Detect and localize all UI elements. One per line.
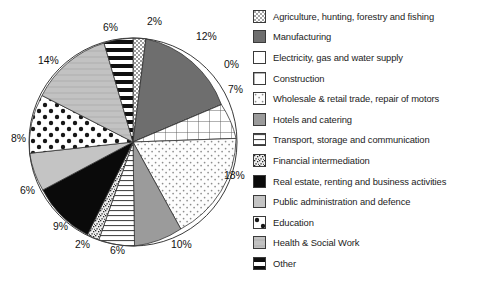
legend-item[interactable]: Other [253,253,496,274]
legend-item-label: Agriculture, hunting, forestry and fishi… [273,11,434,22]
solid-medium-gray-swatch [253,113,266,126]
legend-item[interactable]: Wholesale & retail trade, repair of moto… [253,88,496,109]
legend-item[interactable]: Financial intermediation [253,150,496,171]
pie-chart: 2%12%0%7%18%10%6%2%9%6%8%14%6% [0,0,250,281]
legend-item[interactable]: Public administration and defence [253,191,496,212]
legend-item-label: Other [273,258,296,269]
pie-label: 14% [38,55,59,66]
pie-label: 2% [147,16,162,27]
legend-item[interactable]: Manufacturing [253,27,496,48]
pie-label: 6% [110,245,125,256]
legend-item-label: Education [273,217,314,228]
pie-label: 7% [228,84,243,95]
legend-item[interactable]: Health & Social Work [253,233,496,254]
legend-item[interactable]: Hotels and catering [253,109,496,130]
legend-item-label: Wholesale & retail trade, repair of moto… [273,93,439,104]
legend-item-label: Transport, storage and communication [273,134,430,145]
solid-dark-gray-swatch [253,30,266,43]
pie-label: 18% [224,170,245,181]
legend-item-label: Hotels and catering [273,114,352,125]
legend: Agriculture, hunting, forestry and fishi… [253,6,496,274]
checkerboard-swatch [253,10,266,23]
pie-slices [29,38,237,246]
pie-chart-svg [0,0,250,281]
large-dots-swatch [253,216,266,229]
legend-item-label: Manufacturing [273,31,331,42]
legend-item[interactable]: Electricity, gas and water supply [253,47,496,68]
legend-item[interactable]: Construction [253,68,496,89]
legend-item-label: Public administration and defence [273,196,410,207]
legend-item-label: Financial intermediation [273,155,370,166]
horizontal-thin-lines-swatch [253,133,266,146]
legend-item[interactable]: Transport, storage and communication [253,130,496,151]
legend-item-label: Health & Social Work [273,237,359,248]
solid-black-swatch [253,175,266,188]
pie-label: 8% [11,133,26,144]
grid-swatch [253,72,266,85]
legend-item-label: Real estate, renting and business activi… [273,176,446,187]
pie-label: 9% [53,221,68,232]
legend-item[interactable]: Education [253,212,496,233]
legend-item-label: Construction [273,73,324,84]
pie-label: 2% [75,239,90,250]
pie-label: 12% [196,31,217,42]
light-gray-hlines-swatch [253,236,266,249]
legend-item[interactable]: Real estate, renting and business activi… [253,171,496,192]
legend-item[interactable]: Agriculture, hunting, forestry and fishi… [253,6,496,27]
white-swatch [253,51,266,64]
speckle-swatch [253,154,266,167]
pie-label: 6% [103,22,118,33]
pie-label: 0% [224,59,239,70]
pie-label: 6% [20,185,35,196]
solid-light-gray-swatch [253,195,266,208]
pie-label: 10% [171,239,192,250]
fine-dots-swatch [253,92,266,105]
thick-horizontal-stripes-swatch [253,257,266,270]
legend-item-label: Electricity, gas and water supply [273,52,403,63]
